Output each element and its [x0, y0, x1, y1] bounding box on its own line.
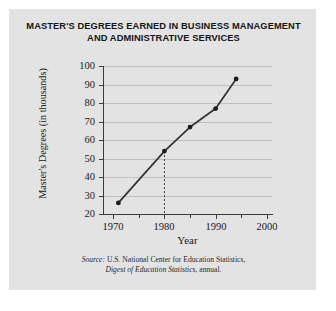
source-note: Source: U.S. National Center for Educati…	[16, 255, 311, 275]
figure: MASTER'S DEGREES EARNED IN BUSINESS MANA…	[0, 0, 336, 311]
source-label: Source:	[82, 255, 105, 264]
source-publication: Digest of Education Statistics	[105, 265, 195, 274]
source-text: U.S. National Center for Education Stati…	[107, 255, 245, 264]
data-point	[162, 149, 167, 154]
data-point	[234, 77, 239, 82]
x-axis-title: Year	[103, 234, 272, 246]
data-point	[116, 201, 121, 206]
data-point	[188, 125, 193, 130]
data-point	[213, 106, 218, 111]
source-suffix: , annual.	[196, 265, 222, 274]
y-axis-title: Master's Degrees (in thousands)	[37, 60, 48, 208]
series-line	[118, 79, 236, 203]
